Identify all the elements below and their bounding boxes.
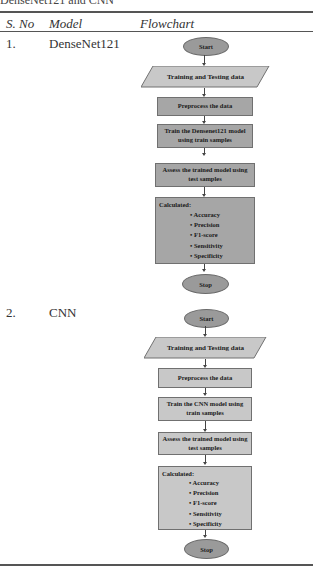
table-bottom-rule <box>0 564 313 566</box>
table-top-rule <box>0 11 313 13</box>
header-model: Model <box>49 16 82 32</box>
calculated-title: Calculated: <box>162 470 194 477</box>
metric-item: Sensitivity <box>190 241 223 251</box>
metric-item: F1-score <box>189 498 222 508</box>
metric-item: Specificity <box>189 519 222 529</box>
train-node: Train the Densenet121 model using train … <box>157 124 253 148</box>
assess-line-1: Assess the trained model using <box>163 166 248 175</box>
assess-line-1: Assess the trained model using <box>163 435 248 444</box>
arrow-icon <box>203 462 207 465</box>
assess-line-2: test samples <box>188 444 221 453</box>
train-line-1: Train the Densenet121 model <box>165 127 246 136</box>
header-sno: S. No <box>6 16 34 32</box>
stop-node: Stop <box>182 274 229 294</box>
metrics-node: Calculated: Accuracy Precision F1-score … <box>158 466 252 530</box>
row-1-sno: 1. <box>6 36 16 52</box>
assess-node: Assess the trained model using test samp… <box>155 163 255 187</box>
start-node: Start <box>184 309 229 328</box>
start-node: Start <box>183 37 229 56</box>
metric-item: Precision <box>189 488 222 498</box>
stop-node: Stop <box>184 539 229 559</box>
metric-item: Sensitivity <box>189 509 222 519</box>
header-flowchart: Flowchart <box>140 16 194 32</box>
metric-item: Precision <box>190 220 223 230</box>
metric-item: Specificity <box>190 251 223 261</box>
train-node: Train the CNN model using train samples <box>158 397 252 421</box>
assess-node: Assess the trained model using test samp… <box>158 432 252 455</box>
metric-item: Accuracy <box>189 478 222 488</box>
preprocess-node: Preprocess the data <box>157 97 253 116</box>
header-bottom-rule <box>0 31 313 32</box>
row-2-sno: 2. <box>6 305 16 321</box>
calculated-title: Calculated: <box>159 201 191 208</box>
arrow-icon <box>203 393 207 396</box>
train-line-1: Train the CNN model using <box>167 400 243 409</box>
arrow-icon <box>203 535 207 538</box>
assess-line-2: test samples <box>188 175 221 184</box>
preprocess-node: Preprocess the data <box>158 368 252 388</box>
table-caption-fragment: DenseNet121 and CNN <box>0 0 114 8</box>
row-2-model: CNN <box>49 305 76 321</box>
train-line-2: using train samples <box>178 136 232 145</box>
metrics-list: Accuracy Precision F1-score Sensitivity … <box>189 478 222 529</box>
arrow-icon <box>202 153 206 156</box>
metric-item: Accuracy <box>190 210 223 220</box>
input-node-label: Training and Testing data <box>141 66 270 88</box>
metric-item: F1-score <box>190 230 223 240</box>
row-1-model: DenseNet121 <box>49 36 120 52</box>
arrow-icon <box>202 269 206 272</box>
metrics-node: Calculated: Accuracy Precision F1-score … <box>155 197 255 264</box>
metrics-list: Accuracy Precision F1-score Sensitivity … <box>190 210 223 261</box>
train-line-2: train samples <box>186 409 223 418</box>
input-node-label: Training and Testing data <box>144 337 267 359</box>
